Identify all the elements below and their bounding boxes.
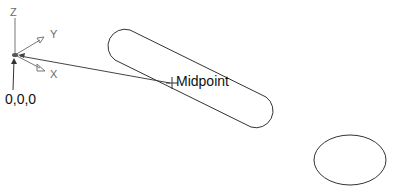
y-axis-label: Y xyxy=(50,28,58,40)
ucs-axis-icon: Z Y X xyxy=(10,6,58,80)
x-axis-label: X xyxy=(50,68,58,80)
z-axis-label: Z xyxy=(10,6,17,18)
origin-leader-arrow-icon xyxy=(11,58,17,64)
drawing-canvas: Z Y X 0,0,0 Midpoint xyxy=(0,0,410,190)
origin-label: 0,0,0 xyxy=(5,91,36,107)
ellipse-shape[interactable] xyxy=(314,135,386,185)
y-axis-line xyxy=(15,40,40,55)
y-axis-arrow-icon xyxy=(37,37,44,43)
midpoint-leader-line xyxy=(20,56,170,83)
origin-marker-icon xyxy=(12,53,18,57)
midpoint-label: Midpoint xyxy=(176,73,229,89)
origin-leader-line xyxy=(13,60,14,90)
